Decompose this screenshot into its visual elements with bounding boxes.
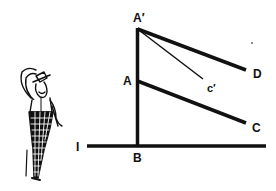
label-c: C (252, 121, 261, 135)
label-i: I (76, 140, 79, 154)
stray-dot (251, 42, 253, 44)
label-a-prime: A′ (133, 11, 145, 25)
line-a-prime-c-prime (138, 29, 204, 79)
geometry-diagram: A′ A c′ D C B I (0, 0, 276, 191)
label-c-prime: c′ (207, 82, 216, 94)
line-a-prime-d (138, 29, 247, 70)
label-a: A (123, 74, 132, 88)
label-d: D (253, 67, 262, 81)
label-b: B (133, 151, 142, 165)
line-a-c (138, 81, 247, 123)
cartoon-man-figure (21, 68, 62, 180)
